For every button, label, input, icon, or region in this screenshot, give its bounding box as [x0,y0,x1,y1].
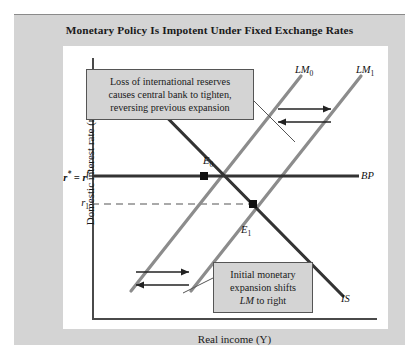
plot-area: Domestic interest rate (r) Real income (… [63,46,388,329]
curve-label-is: IS [341,293,350,304]
annotation-expansion-line-1: Initial monetary [222,268,304,281]
point-label-e0: E0 [203,155,213,169]
curve-label-lm1: LM1 [356,64,374,78]
shift-arrow-upper-right-rightward [278,106,331,113]
point-marker-e1 [249,200,257,208]
annotation-reserves-line-2: causes central bank to tighten, [95,88,245,101]
x-axis-title: Real income (Y) [92,333,377,345]
annotation-expansion-line-2: expansion shifts [222,281,304,294]
shift-arrow-lower-left-leftward [136,282,189,289]
figure-panel: Monetary Policy Is Impotent Under Fixed … [14,14,405,345]
annotation-reserves-line-3: reversing previous expansion [95,101,245,114]
annotation-expansion-line-3: LM to right [222,294,304,307]
annotation-expansion: Initial monetary expansion shifts LM to … [213,262,313,313]
annotation-reserves: Loss of international reserves causes ce… [86,69,254,120]
curve-label-lm0: LM0 [295,64,313,78]
annotation-reserves-line-1: Loss of international reserves [95,75,245,88]
page-title: Monetary Policy Is Impotent Under Fixed … [14,24,405,36]
point-marker-e0 [200,172,208,180]
point-label-e1: E1 [241,224,251,238]
curve-label-bp: BP [361,170,374,181]
figure-container: Monetary Policy Is Impotent Under Fixed … [0,0,419,355]
annotation-expansion-lm-term: LM [240,295,254,306]
